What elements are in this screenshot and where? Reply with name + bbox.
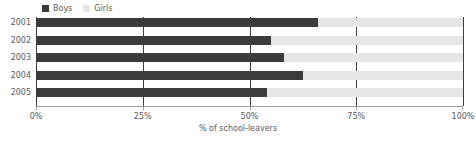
bar-row[interactable] bbox=[36, 71, 463, 80]
bar-row[interactable] bbox=[36, 18, 463, 27]
gridline-100 bbox=[463, 17, 464, 106]
x-tick-25 bbox=[143, 106, 144, 110]
bar-segment-girls[interactable] bbox=[267, 88, 463, 97]
legend-swatch-girls-icon bbox=[83, 5, 90, 12]
bar-segment-girls[interactable] bbox=[284, 53, 463, 62]
x-tick-50 bbox=[250, 106, 251, 110]
bar-row[interactable] bbox=[36, 53, 463, 62]
legend-label-girls: Girls bbox=[94, 4, 112, 13]
bar-segment-boys[interactable] bbox=[36, 71, 303, 80]
bar-segment-boys[interactable] bbox=[36, 53, 284, 62]
legend-item-girls: Girls bbox=[83, 4, 112, 13]
y-tick-label-2004: 2004 bbox=[0, 71, 31, 80]
legend-item-boys: Boys bbox=[42, 4, 72, 13]
bar-segment-girls[interactable] bbox=[271, 36, 463, 45]
x-tick-0 bbox=[36, 106, 37, 110]
y-tick-label-2002: 2002 bbox=[0, 36, 31, 45]
legend-label-boys: Boys bbox=[53, 4, 72, 13]
x-tick-label-25: 25% bbox=[134, 112, 152, 121]
bar-segment-girls[interactable] bbox=[318, 18, 463, 27]
bar-segment-boys[interactable] bbox=[36, 88, 267, 97]
bar-segment-boys[interactable] bbox=[36, 36, 271, 45]
x-tick-label-50: 50% bbox=[241, 112, 259, 121]
plot-area bbox=[36, 17, 463, 106]
stacked-bar-chart: Boys Girls 20012002200320042005 0%25%50%… bbox=[0, 0, 476, 143]
bar-segment-boys[interactable] bbox=[36, 18, 318, 27]
x-tick-100 bbox=[462, 106, 463, 110]
y-tick-label-2003: 2003 bbox=[0, 53, 31, 62]
x-tick-label-0: 0% bbox=[30, 112, 43, 121]
bar-row[interactable] bbox=[36, 36, 463, 45]
legend-swatch-boys-icon bbox=[42, 5, 49, 12]
y-tick-label-2005: 2005 bbox=[0, 88, 31, 97]
y-tick-label-2001: 2001 bbox=[0, 18, 31, 27]
x-tick-75 bbox=[356, 106, 357, 110]
x-tick-label-100: 100% bbox=[452, 112, 475, 121]
bar-row[interactable] bbox=[36, 88, 463, 97]
chart-legend: Boys Girls bbox=[42, 3, 112, 14]
bar-segment-girls[interactable] bbox=[303, 71, 463, 80]
x-tick-label-75: 75% bbox=[347, 112, 365, 121]
x-axis-title: % of school-leavers bbox=[0, 124, 476, 133]
